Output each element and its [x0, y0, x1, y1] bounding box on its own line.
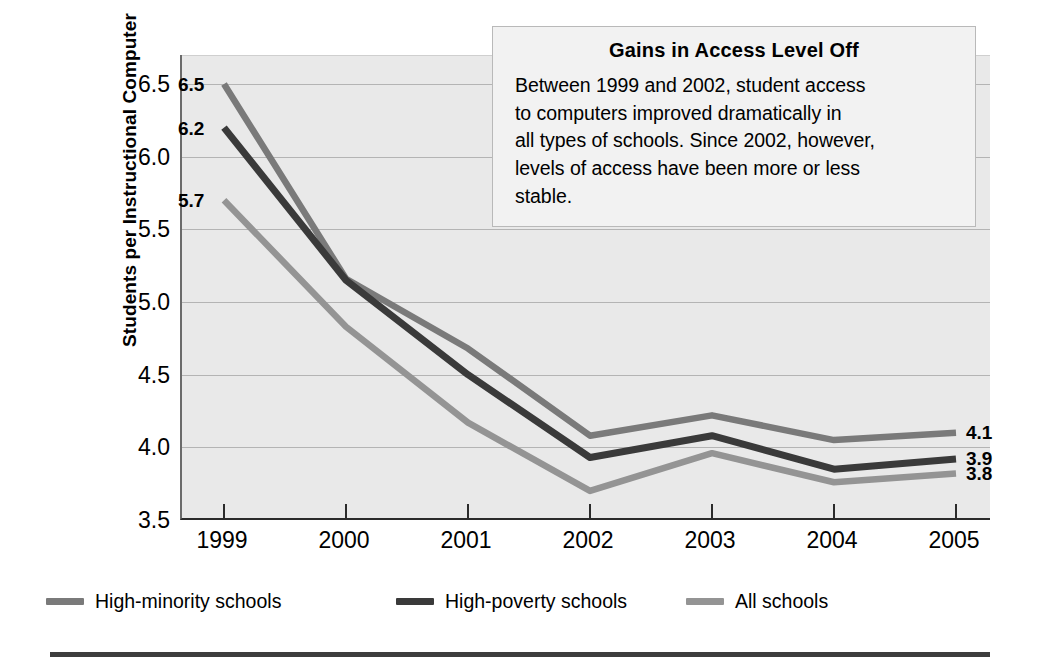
legend-item[interactable]: High-poverty schools	[396, 586, 627, 616]
x-axis-tick-label: 2003	[650, 527, 770, 554]
callout-body-line: to computers improved dramatically in	[515, 100, 953, 128]
series-end-label: 3.8	[966, 463, 992, 485]
legend-color-swatch	[686, 598, 724, 605]
footer-rule	[50, 652, 990, 657]
series-end-label: 4.1	[966, 422, 992, 444]
x-axis-tick-label: 2004	[772, 527, 892, 554]
callout-body-line: all types of schools. Since 2002, howeve…	[515, 127, 953, 155]
y-axis-tick-label: 4.0	[100, 434, 170, 461]
chart-figure: Students per Instructional Computer 3.54…	[0, 0, 1042, 667]
legend-color-swatch	[46, 598, 84, 605]
y-axis-tick-label: 6.0	[100, 143, 170, 170]
x-axis-tick-label: 2001	[406, 527, 526, 554]
x-axis-tick-label: 2000	[284, 527, 404, 554]
legend-label: All schools	[735, 590, 828, 613]
callout-title: Gains in Access Level Off	[515, 39, 953, 62]
legend-label: High-minority schools	[95, 590, 281, 613]
series-start-label: 5.7	[178, 190, 204, 212]
series-line	[224, 200, 956, 491]
callout-box: Gains in Access Level Off Between 1999 a…	[492, 26, 976, 227]
y-axis-tick-label: 5.5	[100, 216, 170, 243]
legend-label: High-poverty schools	[445, 590, 627, 613]
x-axis-tick-label: 2002	[528, 527, 648, 554]
callout-body-line: stable.	[515, 183, 953, 211]
legend-color-swatch	[396, 598, 434, 605]
series-start-label: 6.5	[178, 74, 204, 96]
legend-item[interactable]: All schools	[686, 586, 828, 616]
y-axis-tick-label: 6.5	[100, 71, 170, 98]
y-axis-tick-label: 3.5	[100, 507, 170, 534]
series-start-label: 6.2	[178, 118, 204, 140]
y-axis-tick-label: 4.5	[100, 361, 170, 388]
callout-body-line: levels of access have been more or less	[515, 155, 953, 183]
callout-body-line: Between 1999 and 2002, student access	[515, 72, 953, 100]
y-axis-tick-label: 5.0	[100, 289, 170, 316]
callout-body: Between 1999 and 2002, student accessto …	[515, 72, 953, 210]
x-axis-tick-label: 1999	[162, 527, 282, 554]
chart-legend: High-minority schoolsHigh-poverty school…	[46, 586, 986, 618]
x-axis-tick-label: 2005	[894, 527, 1014, 554]
legend-item[interactable]: High-minority schools	[46, 586, 281, 616]
